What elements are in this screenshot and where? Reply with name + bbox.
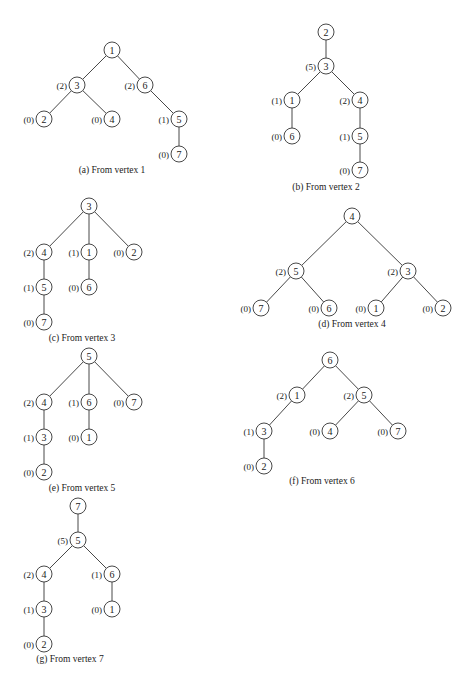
tree-node: 4(2)	[340, 92, 369, 108]
tree-node: 6(0)	[309, 300, 338, 316]
tree-node: 5(2)	[344, 387, 373, 403]
tree-edge	[336, 366, 359, 390]
tree-node: 7(0)	[378, 423, 407, 439]
tree-e: 54(2)6(1)7(0)3(1)1(0)2(0)(e) From vertex…	[24, 348, 143, 494]
tree-node: 4(0)	[92, 111, 121, 127]
height-label: (0)	[356, 304, 367, 314]
tree-edge	[95, 212, 129, 247]
tree-node: 5(1)	[340, 128, 369, 144]
node-label: 4	[42, 397, 47, 408]
tree-node: 1	[104, 42, 120, 58]
height-label: (0)	[24, 640, 35, 650]
node-label: 6	[328, 355, 333, 366]
height-label: (1)	[244, 427, 255, 437]
node-label: 5	[42, 282, 47, 293]
tree-edge	[117, 56, 139, 79]
node-label: 7	[42, 317, 47, 328]
node-label: 4	[42, 247, 47, 258]
node-label: 6	[327, 303, 332, 314]
height-label: (0)	[24, 468, 35, 478]
node-label: 3	[42, 432, 47, 443]
tree-node: 7(0)	[241, 300, 270, 316]
node-label: 7	[177, 149, 182, 160]
tree-f: 61(2)5(2)3(1)4(0)7(0)2(0)(f) From vertex…	[244, 352, 407, 487]
tree-c: 34(2)1(1)2(0)5(1)6(0)7(0)(c) From vertex…	[24, 198, 143, 344]
height-label: (2)	[125, 81, 136, 91]
height-label: (0)	[69, 283, 80, 293]
tree-node: 7(0)	[159, 146, 188, 162]
node-label: 7	[132, 397, 137, 408]
tree-node: 7(0)	[114, 394, 143, 410]
tree-caption: (c) From vertex 3	[49, 333, 116, 344]
node-label: 2	[324, 27, 329, 38]
tree-edge	[50, 212, 84, 247]
edges	[50, 56, 179, 146]
tree-edge	[269, 401, 291, 425]
node-label: 3	[262, 426, 267, 437]
tree-caption: (d) From vertex 4	[318, 319, 386, 330]
tree-edge	[84, 546, 107, 569]
node-label: 7	[358, 165, 363, 176]
node-label: 4	[350, 211, 355, 222]
height-label: (2)	[24, 398, 35, 408]
node-label: 7	[396, 426, 401, 437]
tree-node: 1(2)	[277, 387, 306, 403]
tree-edge	[50, 91, 72, 114]
height-label: (0)	[92, 605, 103, 615]
node-label: 4	[110, 114, 115, 125]
height-label: (0)	[24, 318, 35, 328]
tree-node: 2(0)	[244, 458, 273, 474]
height-label: (0)	[69, 433, 80, 443]
height-label: (0)	[114, 248, 125, 258]
tree-node: 5(1)	[159, 111, 188, 127]
height-label: (2)	[276, 267, 287, 277]
tree-node: 3(2)	[388, 263, 417, 279]
tree-node: 7	[70, 498, 86, 514]
tree-node: 2	[318, 24, 334, 40]
node-label: 6	[87, 397, 92, 408]
node-label: 6	[87, 282, 92, 293]
tree-edge	[358, 222, 403, 266]
tree-node: 6(1)	[69, 394, 98, 410]
tree-node: 4(2)	[24, 394, 53, 410]
tree-node: 3(2)	[57, 77, 86, 93]
height-label: (0)	[92, 115, 103, 125]
tree-d: 45(2)3(2)7(0)6(0)1(0)2(0)(d) From vertex…	[241, 208, 452, 330]
height-label: (5)	[306, 62, 317, 72]
tree-node: 6(0)	[69, 279, 98, 295]
tree-node: 1(0)	[92, 601, 121, 617]
node-label: 1	[110, 604, 115, 615]
tree-node: 5(1)	[24, 279, 53, 295]
height-label: (0)	[159, 150, 170, 160]
tree-node: 3(5)	[306, 58, 335, 74]
tree-node: 4(2)	[24, 244, 53, 260]
node-label: 6	[143, 80, 148, 91]
edges	[44, 362, 128, 464]
height-label: (2)	[277, 391, 288, 401]
tree-edge	[335, 401, 358, 425]
edges	[44, 212, 128, 314]
tree-node: 1(1)	[272, 92, 301, 108]
node-label: 7	[76, 501, 81, 512]
tree-node: 3(1)	[24, 601, 53, 617]
tree-caption: (e) From vertex 5	[49, 483, 116, 494]
tree-node: 4(2)	[24, 566, 53, 582]
height-label: (5)	[58, 536, 69, 546]
node-label: 4	[358, 95, 363, 106]
tree-node: 5	[81, 348, 97, 364]
tree-node: 5(2)	[276, 263, 305, 279]
node-label: 5	[177, 114, 182, 125]
node-label: 4	[42, 569, 47, 580]
tree-node: 6(1)	[92, 566, 121, 582]
tree-node: 2(0)	[114, 244, 143, 260]
tree-edge	[413, 277, 437, 302]
node-label: 6	[110, 569, 115, 580]
tree-g: 75(5)4(2)6(1)3(1)1(0)2(0)(g) From vertex…	[24, 498, 121, 665]
tree-edge	[298, 72, 321, 95]
tree-edge	[369, 401, 392, 425]
height-label: (1)	[24, 433, 35, 443]
height-label: (0)	[310, 427, 321, 437]
tree-node: 7(0)	[340, 162, 369, 178]
tree-node: 6	[322, 352, 338, 368]
tree-node: 2(0)	[423, 300, 452, 316]
